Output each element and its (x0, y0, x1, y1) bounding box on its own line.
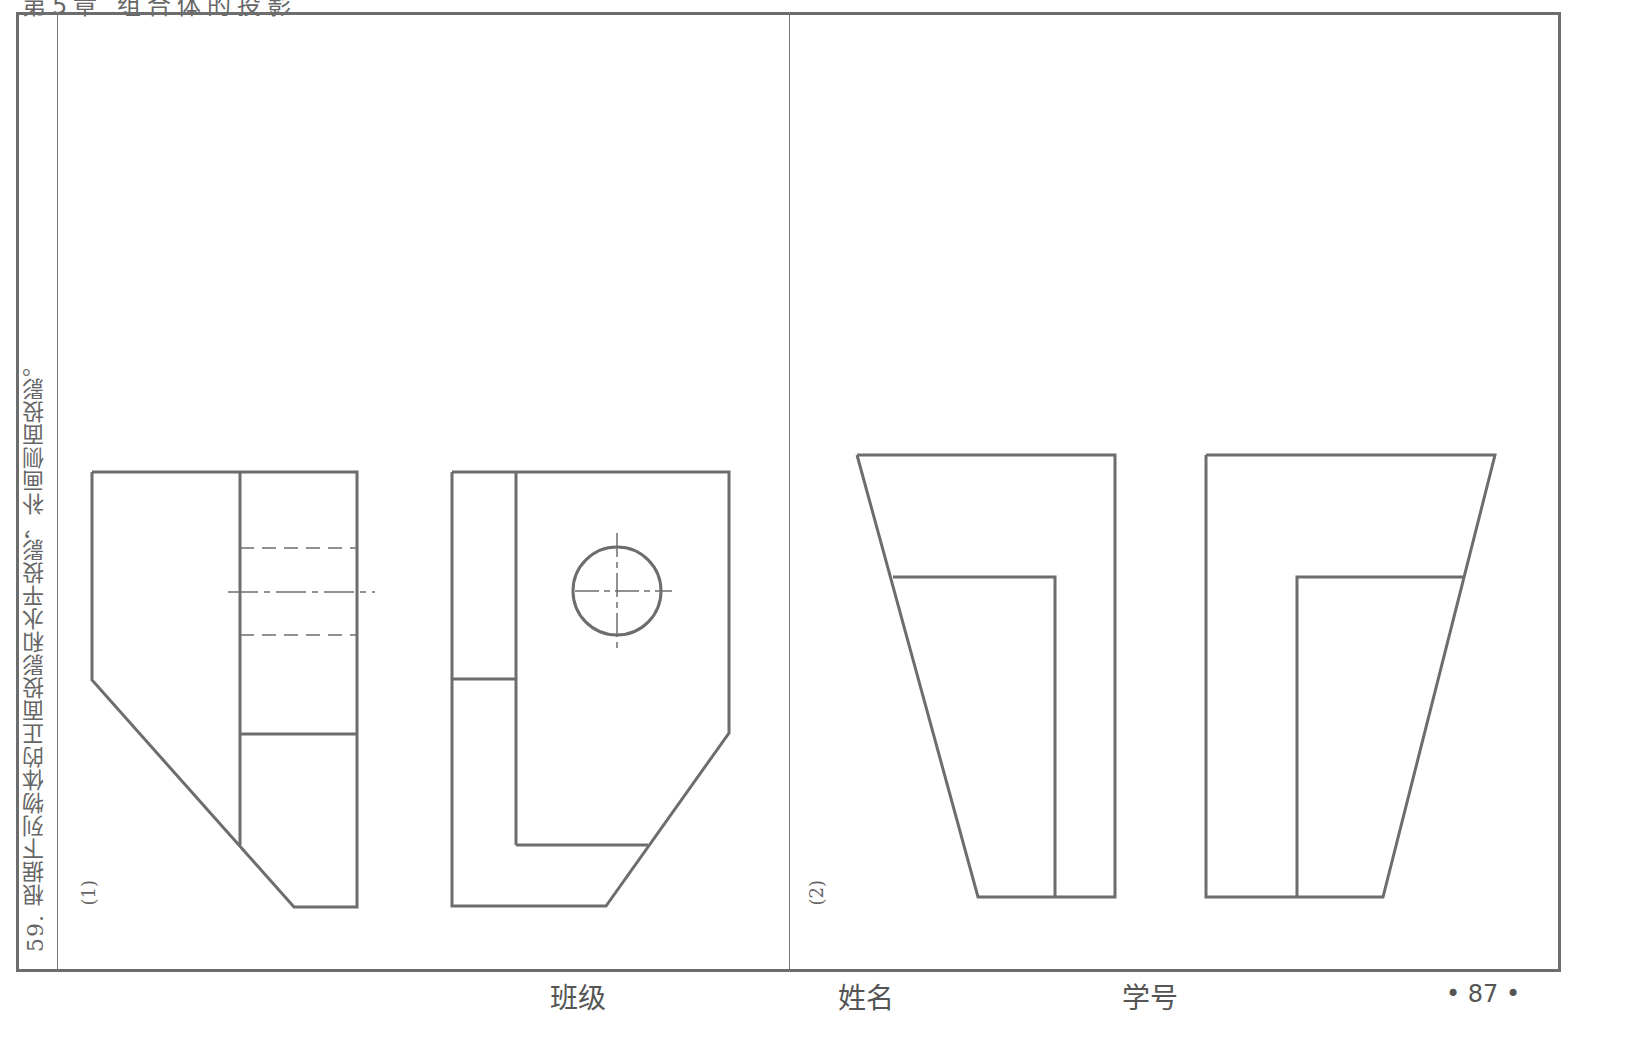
page-number: • 87 • (1446, 980, 1520, 1008)
problem-2-front-view (857, 455, 1115, 897)
class-label: 班级 (550, 976, 606, 1016)
name-label: 姓名 (838, 976, 894, 1016)
problem-1-horizontal-view (452, 472, 729, 906)
student-id-label: 学号 (1122, 976, 1178, 1016)
problem-1-front-view (92, 472, 357, 907)
problem-2-horizontal-view (1206, 455, 1495, 897)
technical-drawings (0, 0, 1638, 1060)
